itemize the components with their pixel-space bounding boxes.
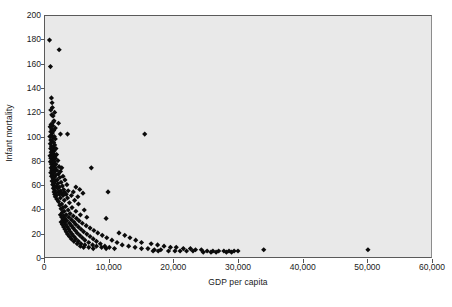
data-point-marker [91,228,96,233]
data-point-marker [100,233,105,238]
data-point-marker [56,121,61,126]
y-tick-label: 40 [15,204,41,214]
y-tick-mark [41,39,45,40]
data-point-marker [142,132,147,137]
data-point-marker [104,216,109,221]
data-point-marker [64,182,69,187]
data-point-marker [122,233,127,238]
data-point-marker [109,238,114,243]
y-tick-label: 180 [15,34,41,44]
x-tick-label: 20,000 [160,262,186,272]
data-point-marker [57,47,62,52]
y-tick-mark [41,185,45,186]
y-tick-mark [41,161,45,162]
data-point-marker [49,95,54,100]
data-point-marker [65,132,70,137]
data-point-marker [261,247,266,252]
y-tick-label: 80 [15,156,41,166]
data-point-marker [112,246,117,251]
x-tick-label: 40,000 [290,262,316,272]
y-tick-label: 200 [15,10,41,20]
data-point-marker [365,247,370,252]
y-tick-mark [41,112,45,113]
data-point-marker [133,238,138,243]
data-point-marker [58,132,63,137]
data-point-marker [84,223,89,228]
data-point-marker [114,240,119,245]
y-tick-mark [41,234,45,235]
data-point-marker [120,242,125,247]
data-point-marker [72,198,77,203]
x-tick-mark [432,259,433,263]
data-point-marker [75,194,80,199]
y-tick-mark [41,88,45,89]
x-tick-mark [303,259,304,263]
data-point-marker [205,248,210,253]
y-tick-label: 0 [15,253,41,263]
x-tick-mark [238,259,239,263]
data-point-marker [67,200,72,205]
y-tick-label: 20 [15,229,41,239]
data-point-marker [155,242,160,247]
data-point-marker [139,246,144,251]
data-point-marker [86,245,91,250]
data-point-marker [69,205,74,210]
data-point-marker [87,226,92,231]
data-point-marker [161,244,166,249]
data-point-marker [139,240,144,245]
plot-area [44,15,432,258]
data-point-marker [126,244,131,249]
x-tick-mark [44,259,45,263]
x-tick-mark [367,259,368,263]
data-point-marker [95,230,100,235]
y-tick-mark [41,64,45,65]
x-tick-label: 30,000 [225,262,251,272]
x-tick-mark [109,259,110,263]
data-point-marker [235,248,240,253]
data-point-marker [149,241,154,246]
data-point-marker [82,207,87,212]
y-tick-mark [41,209,45,210]
data-points-layer [45,16,431,257]
y-tick-label: 60 [15,180,41,190]
data-point-marker [76,201,81,206]
y-tick-mark [41,137,45,138]
x-tick-label: 60,000 [419,262,445,272]
y-axis-tick-labels: 020406080100120140160180200 [12,0,41,307]
data-point-marker [84,215,89,220]
data-point-marker [73,185,78,190]
y-tick-label: 160 [15,59,41,69]
y-tick-label: 100 [15,132,41,142]
data-point-marker [116,230,121,235]
x-axis-title: GDP per capita [44,277,432,287]
data-point-marker [127,235,132,240]
data-point-marker [145,246,150,251]
x-tick-label: 10,000 [96,262,122,272]
x-tick-mark [173,259,174,263]
data-point-marker [73,209,78,214]
data-point-marker [47,38,52,43]
data-point-marker [78,212,83,217]
data-point-marker [105,189,110,194]
data-point-marker [80,191,85,196]
data-point-marker [86,240,91,245]
data-point-marker [48,64,53,69]
scatter-chart-figure: Infant mortality 02040608010012014016018… [0,0,452,307]
data-point-marker [89,165,94,170]
data-point-marker [104,235,109,240]
y-tick-label: 140 [15,83,41,93]
data-point-marker [132,245,137,250]
y-tick-label: 120 [15,107,41,117]
x-tick-label: 50,000 [354,262,380,272]
data-point-marker [49,100,54,105]
data-point-marker [77,187,82,192]
x-tick-label: 0 [42,262,47,272]
